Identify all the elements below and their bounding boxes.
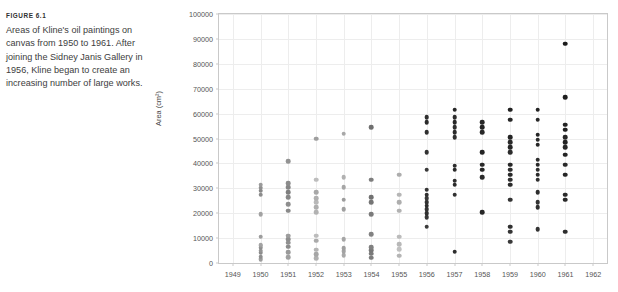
- data-point: [508, 150, 513, 155]
- data-point: [314, 238, 319, 243]
- y-tick-label: 0: [209, 259, 219, 268]
- y-gridline: [219, 114, 607, 115]
- data-point: [563, 192, 568, 197]
- data-point: [563, 172, 568, 177]
- data-point: [563, 42, 568, 47]
- data-point: [563, 162, 568, 167]
- x-tick-label: 1956: [419, 263, 435, 279]
- data-point: [314, 256, 319, 261]
- data-point: [535, 190, 540, 195]
- data-point: [452, 179, 457, 184]
- data-point: [314, 190, 319, 195]
- data-point: [397, 172, 402, 177]
- data-point: [480, 210, 485, 215]
- data-point: [535, 118, 540, 123]
- x-tick-label: 1958: [474, 263, 490, 279]
- data-point: [258, 182, 263, 187]
- data-point: [369, 232, 374, 237]
- data-point: [563, 152, 568, 157]
- data-point: [452, 120, 457, 125]
- data-point: [314, 233, 319, 238]
- figure-6-1: FIGURE 6.1 Areas of Kline's oil painting…: [0, 0, 618, 292]
- x-tick-label: 1952: [308, 263, 324, 279]
- data-point: [452, 108, 457, 113]
- x-gridline: [399, 14, 400, 263]
- data-point: [425, 130, 430, 135]
- data-point: [286, 195, 291, 200]
- x-tick-label: 1950: [253, 263, 269, 279]
- data-point: [563, 230, 568, 235]
- data-point: [425, 150, 430, 155]
- data-point: [314, 196, 319, 201]
- data-point: [508, 177, 513, 182]
- data-point: [480, 167, 485, 172]
- y-tick-label: 30000: [193, 184, 219, 193]
- data-point: [480, 150, 485, 155]
- data-point: [397, 208, 402, 213]
- data-point: [369, 195, 374, 200]
- x-gridline: [344, 14, 345, 263]
- data-point: [535, 132, 540, 137]
- data-point: [563, 95, 568, 100]
- x-tick-label: 1953: [336, 263, 352, 279]
- y-tick-label: 40000: [193, 159, 219, 168]
- data-point: [508, 172, 513, 177]
- y-tick-label: 20000: [193, 209, 219, 218]
- data-point: [314, 136, 319, 141]
- data-point: [508, 140, 513, 145]
- x-tick-label: 1961: [557, 263, 573, 279]
- data-point: [397, 253, 402, 258]
- data-point: [535, 167, 540, 172]
- data-point: [369, 212, 374, 217]
- data-point: [425, 167, 430, 172]
- data-point: [341, 207, 346, 212]
- data-point: [341, 185, 346, 190]
- data-point: [563, 145, 568, 150]
- data-point: [480, 120, 485, 125]
- data-point: [286, 233, 291, 238]
- scatter-chart: Area (cm²) 01000020000300004000050000600…: [152, 8, 614, 288]
- x-gridline: [593, 14, 594, 263]
- data-point: [452, 115, 457, 120]
- data-point: [369, 255, 374, 260]
- data-point: [314, 210, 319, 215]
- y-gridline: [219, 188, 607, 189]
- data-point: [508, 135, 513, 140]
- data-point: [425, 115, 430, 120]
- y-tick-label: 90000: [193, 34, 219, 43]
- data-point: [286, 159, 291, 164]
- data-point: [535, 162, 540, 167]
- y-tick-label: 80000: [193, 59, 219, 68]
- data-point: [397, 235, 402, 240]
- data-point: [286, 245, 291, 250]
- data-point: [425, 187, 430, 192]
- x-tick-label: 1957: [447, 263, 463, 279]
- x-tick-label: 1959: [502, 263, 518, 279]
- y-gridline: [219, 213, 607, 214]
- data-point: [508, 118, 513, 123]
- data-point: [535, 108, 540, 113]
- data-point: [258, 235, 263, 240]
- data-point: [452, 192, 457, 197]
- data-point: [341, 131, 346, 136]
- data-point: [480, 175, 485, 180]
- y-gridline: [219, 238, 607, 239]
- data-point: [286, 250, 291, 255]
- data-point: [258, 254, 263, 259]
- data-point: [508, 197, 513, 202]
- plot-area: 0100002000030000400005000060000700008000…: [218, 13, 608, 264]
- data-point: [341, 197, 346, 202]
- y-tick-label: 60000: [193, 109, 219, 118]
- data-point: [341, 246, 346, 251]
- data-point: [314, 177, 319, 182]
- data-point: [452, 164, 457, 169]
- data-point: [286, 181, 291, 186]
- x-tick-label: 1949: [225, 263, 241, 279]
- x-tick-label: 1955: [391, 263, 407, 279]
- data-point: [397, 200, 402, 205]
- data-point: [535, 200, 540, 205]
- data-point: [341, 175, 346, 180]
- y-axis-title: Area (cm²): [154, 91, 163, 126]
- data-point: [452, 249, 457, 254]
- data-point: [535, 177, 540, 182]
